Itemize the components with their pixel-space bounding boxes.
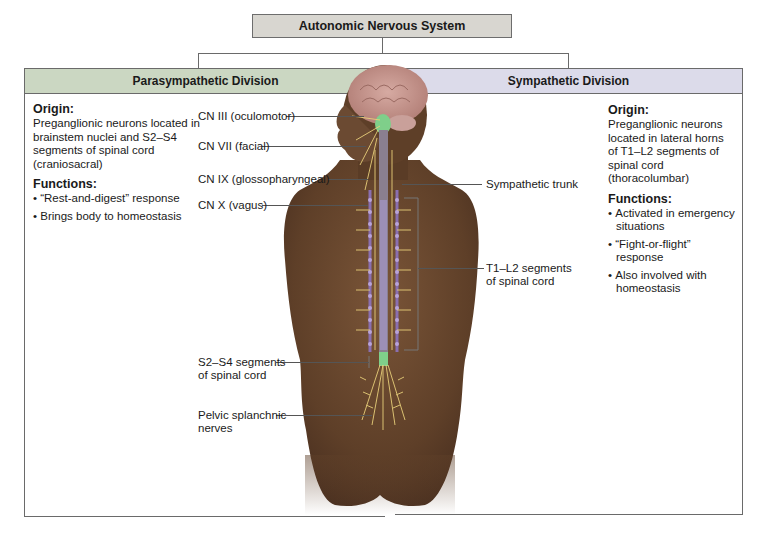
- label-t1l2-line1: T1–L2 segments: [486, 262, 572, 275]
- label-cn9: CN IX (glossopharyngeal): [198, 173, 330, 186]
- leader-sympathetic-trunk: [402, 184, 482, 185]
- label-cn3: CN III (oculomotor): [198, 110, 295, 123]
- leader-pelvic: [276, 415, 372, 416]
- label-cn7: CN VII (facial): [198, 140, 270, 153]
- label-t1l2-line2: of spinal cord: [486, 275, 554, 288]
- leader-cn7: [262, 146, 366, 147]
- label-sympathetic-trunk: Sympathetic trunk: [486, 178, 578, 191]
- label-s2s4-line1: S2–S4 segments: [198, 356, 286, 369]
- leader-cn10: [262, 205, 368, 206]
- human-anatomy-illustration: [0, 0, 766, 534]
- label-pelvic-line2: nerves: [198, 422, 233, 435]
- label-s2s4-line2: of spinal cord: [198, 369, 266, 382]
- label-cn10: CN X (vagus): [198, 199, 267, 212]
- sacral-segment: [379, 352, 388, 366]
- leader-s2s4: [276, 362, 369, 363]
- leader-cn9: [328, 179, 368, 180]
- label-pelvic-line1: Pelvic splanchnic: [198, 409, 286, 422]
- leader-t1l2: [418, 268, 484, 269]
- leader-cn3: [286, 116, 364, 117]
